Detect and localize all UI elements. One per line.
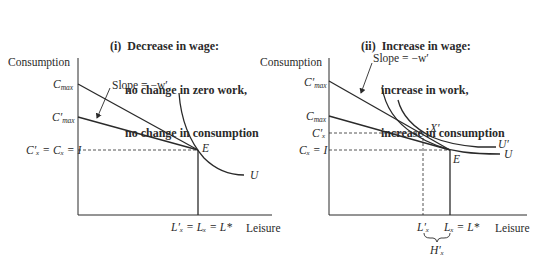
panel-i-cmax-label: Cmax (53, 78, 74, 92)
panel-ii-indifference-curve-u (382, 87, 500, 154)
panel-i-equilibrium-leisure-label: L′ₓ = Lₓ = L* (170, 221, 232, 233)
panel-i: Consumption Leisure Slope = −w′ Cmax C′m… (8, 56, 280, 234)
panel-ii-lx-label: Lₓ = L* (443, 221, 480, 233)
panel-ii: Consumption Leisure Slope = −w′ C′max Cm… (260, 52, 529, 256)
panel-ii-cmax-prime-label: C′max (304, 76, 327, 90)
panel-ii-slope-label: Slope = −w′ (373, 52, 429, 65)
panel-ii-x-axis-label: Leisure (495, 222, 529, 234)
panel-i-curve-u-label: U (250, 169, 259, 181)
panel-i-point-e: E (201, 142, 209, 154)
panel-i-budget-line-original (78, 84, 198, 150)
panel-i-slope-label: Slope = −w′ (112, 79, 168, 92)
panel-i-indifference-curve-u (179, 93, 244, 175)
panel-ii-point-x-prime: X′ (429, 122, 440, 134)
panel-i-cmax-prime-label: C′max (52, 111, 75, 125)
panel-ii-slope-arrow (361, 63, 372, 93)
panel-ii-point-e: E (452, 153, 460, 165)
panel-ii-curve-u-label: U (504, 148, 513, 160)
panel-i-y-axis-label: Consumption (8, 56, 70, 69)
panel-i-slope-arrow (97, 88, 110, 118)
panel-ii-hx-prime-label: H′ₓ (429, 244, 444, 256)
panel-ii-cx-label: Cₓ = I (299, 144, 328, 156)
panel-i-budget-line-new (78, 117, 198, 150)
panel-ii-cmax-label: Cmax (306, 110, 327, 124)
panel-ii-hours-brace (424, 233, 450, 242)
panel-i-x-axis-label: Leisure (246, 222, 280, 234)
panel-ii-y-axis-label: Consumption (260, 56, 322, 69)
panel-i-equilibrium-consumption-label: C′ₓ = Cₓ = I (26, 144, 82, 156)
labor-leisure-diagram: Consumption Leisure Slope = −w′ Cmax C′m… (0, 0, 537, 262)
panel-ii-budget-line-new (329, 81, 450, 150)
panel-ii-lx-prime-label: L′ₓ (416, 221, 429, 233)
panel-ii-cx-prime-label: C′ₓ (312, 127, 325, 139)
